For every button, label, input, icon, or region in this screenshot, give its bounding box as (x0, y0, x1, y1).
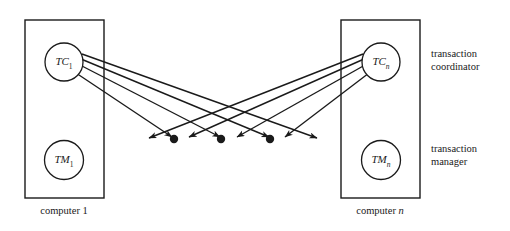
arrow-tcn-0 (149, 54, 363, 138)
dot-2 (217, 135, 225, 143)
dot-3 (266, 135, 274, 143)
diagram-canvas (0, 0, 510, 231)
message-arrows (76, 54, 369, 138)
arrow-tcn-2 (237, 65, 365, 137)
side-label-transaction-manager: transaction manager (431, 143, 477, 168)
arrow-tc1-1 (81, 59, 269, 137)
caption-computer-n: computer n (356, 205, 404, 216)
label-tc1: TC1 (55, 55, 72, 70)
arrow-tc1-2 (80, 65, 220, 137)
dot-1 (170, 135, 178, 143)
arrow-tcn-3 (285, 73, 369, 137)
rendezvous-dots (170, 135, 274, 143)
label-tm1: TM1 (54, 153, 73, 168)
side-label-transaction-coordinator: transaction coordinator (431, 48, 479, 73)
process-circles (45, 43, 401, 180)
label-tmn: TMn (371, 153, 390, 168)
label-tcn: TCn (372, 55, 389, 70)
caption-computer-1: computer 1 (40, 205, 88, 216)
arrow-tcn-1 (189, 59, 364, 137)
